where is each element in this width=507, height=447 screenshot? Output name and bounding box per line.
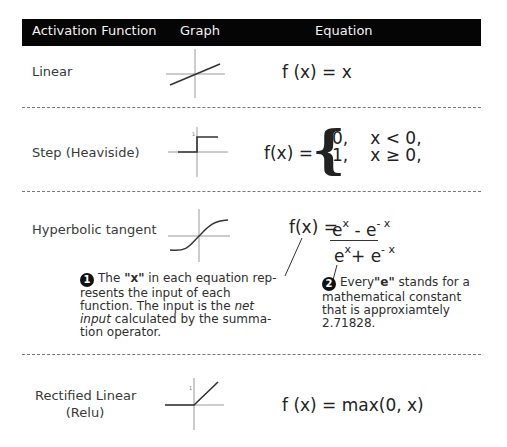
row-relu-equation: f (x) = max(0, x) (282, 395, 424, 415)
note-1: 1The "x" in each equation rep-resents th… (80, 272, 280, 339)
note-bold: "e" (374, 275, 395, 289)
relu-name-line2: (Relu) (35, 404, 135, 421)
relu-graph-icon: 1 (155, 370, 235, 440)
row-relu-name: Rectified Linear (Relu) (35, 387, 135, 421)
callout-lines (0, 0, 507, 447)
row-divider (22, 354, 481, 355)
note-2: 2Every"e" stands for a mathematical cons… (322, 276, 482, 330)
note-text: Every (340, 275, 374, 289)
relu-name-line1: Rectified Linear (35, 387, 135, 404)
note-number-badge: 1 (80, 273, 94, 287)
tick-label: 1 (189, 385, 192, 391)
note-text: The (98, 271, 124, 285)
note-number-badge: 2 (322, 277, 336, 291)
note-bold: "x" (124, 271, 144, 285)
